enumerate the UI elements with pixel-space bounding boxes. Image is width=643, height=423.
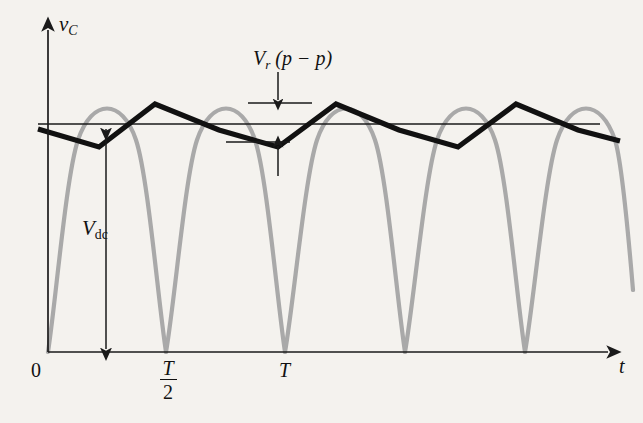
vdc-symbol: V — [82, 216, 95, 240]
sine-arch-3 — [285, 109, 405, 353]
vdc-subscript: dc — [95, 227, 108, 242]
origin-tick-label: 0 — [31, 360, 41, 380]
tick-label-full-period: T — [279, 360, 290, 380]
ripple-suffix: (p − p) — [275, 47, 332, 69]
rectifier-ripple-figure: vC t 0 T 2 T Vdc Vr(p − p) — [0, 0, 643, 423]
ripple-subscript: r — [265, 57, 270, 72]
y-axis-label-subscript: C — [68, 23, 77, 38]
half-period-denominator: 2 — [156, 380, 180, 402]
y-axis-label-symbol: v — [59, 12, 68, 36]
ripple-symbol: V — [253, 47, 265, 69]
half-period-numerator: T — [156, 358, 180, 379]
sine-arch-5 — [525, 109, 633, 353]
vdc-annotation-label: Vdc — [82, 218, 108, 242]
x-axis-label: t — [619, 356, 625, 376]
ripple-sawtooth-waveform — [38, 104, 620, 147]
rectified-sine-waveform — [48, 109, 633, 353]
ripple-annotation-label: Vr(p − p) — [253, 48, 332, 71]
y-axis-label: vC — [59, 14, 78, 38]
tick-label-half-period: T 2 — [156, 358, 180, 402]
